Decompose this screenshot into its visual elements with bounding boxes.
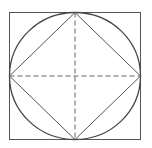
geometry-diagram — [0, 0, 152, 148]
